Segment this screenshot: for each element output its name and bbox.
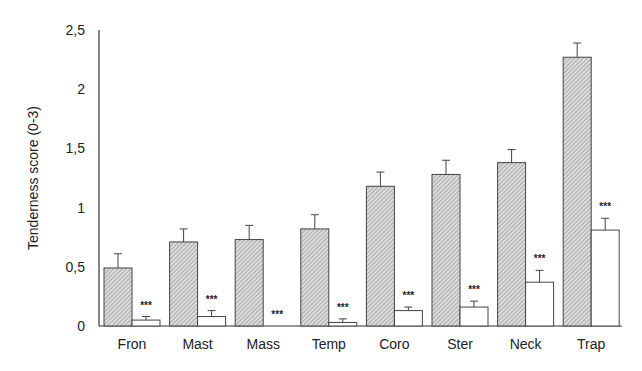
- y-axis-label: Tenderness score (0-3): [25, 106, 41, 250]
- open-bar: [526, 282, 554, 326]
- bar-group-mass: ***Mass: [235, 225, 283, 352]
- open-bar: [198, 317, 226, 326]
- open-bar: [132, 320, 160, 326]
- hatched-bar: [498, 163, 526, 326]
- x-tick-label: Mass: [246, 336, 279, 352]
- bar-group-fron: ***Fron: [104, 254, 160, 352]
- significance-marker: ***: [271, 309, 283, 320]
- hatched-bar: [432, 174, 460, 326]
- significance-marker: ***: [534, 253, 546, 264]
- open-bar: [329, 322, 357, 326]
- significance-marker: ***: [206, 294, 218, 305]
- x-tick-label: Mast: [182, 336, 212, 352]
- hatched-bar: [301, 229, 329, 326]
- bar-group-mast: ***Mast: [170, 229, 226, 352]
- bar-group-trap: ***Trap: [563, 43, 619, 352]
- open-bar: [394, 311, 422, 326]
- bars: ***Fron***Mast***Mass***Temp***Coro***St…: [104, 43, 619, 352]
- x-tick-label: Neck: [510, 336, 543, 352]
- bar-group-temp: ***Temp: [301, 215, 357, 352]
- y-tick-label: 0,5: [66, 259, 86, 275]
- bar-group-coro: ***Coro: [366, 172, 422, 352]
- y-tick-label: 0: [77, 318, 85, 334]
- significance-marker: ***: [468, 284, 480, 295]
- significance-marker: ***: [599, 201, 611, 212]
- y-tick-label: 1,5: [66, 140, 86, 156]
- significance-marker: ***: [140, 300, 152, 311]
- open-bar: [591, 230, 619, 326]
- hatched-bar: [366, 186, 394, 326]
- y-tick-label: 2,5: [66, 22, 86, 38]
- significance-marker: ***: [337, 302, 349, 313]
- hatched-bar: [563, 57, 591, 326]
- bar-group-neck: ***Neck: [498, 150, 554, 352]
- x-tick-label: Temp: [312, 336, 346, 352]
- y-tick-label: 1: [77, 200, 85, 216]
- hatched-bar: [104, 268, 132, 326]
- x-tick-label: Fron: [118, 336, 147, 352]
- open-bar: [460, 307, 488, 326]
- y-axis: 00,511,522,5: [66, 22, 99, 334]
- hatched-bar: [235, 240, 263, 326]
- significance-marker: ***: [403, 290, 415, 301]
- x-tick-label: Coro: [379, 336, 410, 352]
- x-tick-label: Ster: [447, 336, 473, 352]
- bar-group-ster: ***Ster: [432, 160, 488, 352]
- x-tick-label: Trap: [577, 336, 605, 352]
- hatched-bar: [170, 242, 198, 326]
- bar-chart: 00,511,522,5 ***Fron***Mast***Mass***Tem…: [0, 0, 642, 371]
- y-tick-label: 2: [77, 81, 85, 97]
